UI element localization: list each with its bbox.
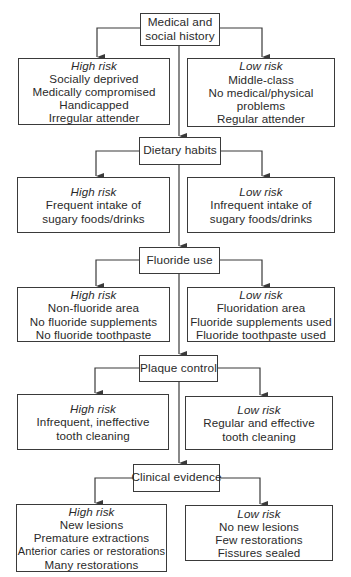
low-risk-box-fluoride: Low risk Fluoridation area Fluoride supp… <box>187 287 335 342</box>
risk-factor: Non-fluoride area <box>48 301 139 314</box>
risk-factor: sugary foods/drinks <box>210 212 312 225</box>
step-label: Medical and <box>148 16 213 29</box>
risk-factor: Fluoride toothpaste used <box>196 328 326 341</box>
high-risk-box-medical: High risk Socially deprived Medically co… <box>18 58 170 125</box>
risk-factor: Handicapped <box>59 98 128 111</box>
step-label: social history <box>145 30 215 43</box>
risk-factor: Regular attender <box>217 112 305 125</box>
step-label: Fluoride use <box>146 254 212 267</box>
risk-factor: problems <box>237 99 285 112</box>
risk-factor: No new lesions <box>219 520 299 533</box>
step-fluoride-use: Fluoride use <box>139 247 220 274</box>
risk-factor: Many restorations <box>45 558 139 571</box>
low-risk-box-plaque: Low risk Regular and effective tooth cle… <box>185 396 333 450</box>
risk-factor: Few restorations <box>215 533 302 546</box>
step-medical-social-history: Medical and social history <box>140 13 220 46</box>
risk-factor: No medical/physical <box>209 86 314 99</box>
risk-factor: Irregular attender <box>49 111 140 124</box>
step-plaque-control: Plaque control <box>139 355 218 382</box>
risk-factor: New lesions <box>60 518 124 531</box>
caries-risk-flowchart: Medical and social history High risk Soc… <box>0 0 351 577</box>
low-risk-box-dietary: Low risk Infrequent intake of sugary foo… <box>187 177 335 233</box>
risk-factor: Anterior caries or restorations <box>18 545 165 558</box>
low-risk-box-medical: Low risk Middle-class No medical/physica… <box>187 58 335 127</box>
risk-title: High risk <box>71 59 117 72</box>
risk-factor: Socially deprived <box>49 72 138 85</box>
risk-title: High risk <box>71 185 117 198</box>
risk-factor: Medically compromised <box>32 85 155 98</box>
risk-factor: Fluoride supplements used <box>190 315 332 328</box>
risk-factor: No fluoride supplements <box>30 315 157 328</box>
step-dietary-habits: Dietary habits <box>139 137 221 165</box>
risk-factor: Regular and effective <box>203 416 314 429</box>
risk-title: Low risk <box>237 403 280 416</box>
risk-factor: Fissures sealed <box>218 546 301 559</box>
risk-factor: sugary foods/drinks <box>42 212 144 225</box>
risk-title: Low risk <box>239 185 282 198</box>
risk-factor: Fluoridation area <box>217 301 306 314</box>
high-risk-box-fluoride: High risk Non-fluoride area No fluoride … <box>17 287 170 342</box>
risk-title: High risk <box>69 505 115 518</box>
risk-factor: No fluoride toothpaste <box>36 328 152 341</box>
risk-factor: Frequent intake of <box>46 198 141 211</box>
risk-factor: Infrequent intake of <box>210 198 311 211</box>
step-clinical-evidence: Clinical evidence <box>133 464 220 492</box>
risk-factor: tooth cleaning <box>222 430 296 443</box>
step-label: Dietary habits <box>143 144 217 157</box>
risk-factor: tooth cleaning <box>56 429 130 442</box>
step-label: Plaque control <box>140 362 217 375</box>
risk-factor: Premature extractions <box>34 531 150 544</box>
risk-title: Low risk <box>239 288 282 301</box>
high-risk-box-clinical: High risk New lesions Premature extracti… <box>16 504 167 572</box>
low-risk-box-clinical: Low risk No new lesions Few restorations… <box>185 505 333 561</box>
step-label: Clinical evidence <box>131 471 221 484</box>
risk-title: Low risk <box>237 507 280 520</box>
risk-factor: Middle-class <box>228 73 294 86</box>
risk-title: High risk <box>71 288 117 301</box>
high-risk-box-plaque: High risk Infrequent, ineffective tooth … <box>17 394 169 450</box>
high-risk-box-dietary: High risk Frequent intake of sugary food… <box>17 177 170 233</box>
risk-factor: Infrequent, ineffective <box>37 415 150 428</box>
risk-title: Low risk <box>239 59 282 72</box>
risk-title: High risk <box>70 402 116 415</box>
